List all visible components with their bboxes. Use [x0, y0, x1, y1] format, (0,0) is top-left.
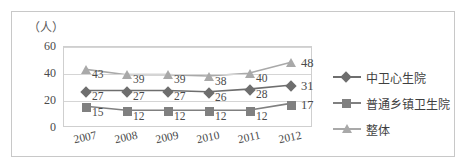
x-tick-label: 2010: [196, 129, 221, 146]
data-point-label: 12: [215, 110, 227, 122]
legend-square-icon: [333, 97, 361, 109]
data-point-label: 15: [92, 106, 104, 118]
legend-triangle-icon: [333, 123, 361, 135]
y-axis-unit-label: （人）: [28, 18, 64, 36]
data-point-label: 27: [174, 90, 186, 102]
data-point-label: 39: [174, 73, 186, 85]
data-point-label: 17: [301, 98, 314, 113]
chart-figure: （人） 0204060 2727272628311512121212174339…: [11, 11, 455, 157]
chart-legend: 中卫心生院普通乡镇卫生院整体: [333, 64, 453, 142]
data-point-label: 28: [256, 88, 268, 100]
data-point-marker: [205, 107, 214, 116]
x-tick-label: 2007: [73, 129, 98, 146]
data-point-marker: [163, 70, 173, 79]
data-point-marker: [81, 65, 91, 74]
y-tick-label: 0: [24, 120, 56, 135]
y-tick-label: 40: [24, 66, 56, 81]
legend-label: 中卫心生院: [366, 69, 426, 86]
x-tick-label: 2009: [155, 129, 180, 146]
plot-area: 272727262831151212121217433939384048: [63, 46, 312, 127]
y-axis-ticks: 0204060: [20, 46, 56, 127]
data-point-marker: [82, 103, 91, 112]
data-point-marker: [123, 107, 132, 116]
y-tick-label: 60: [24, 39, 56, 54]
x-tick-label: 2012: [278, 129, 303, 146]
legend-diamond-icon: [333, 71, 361, 83]
data-point-label: 43: [92, 68, 104, 80]
legend-item-2[interactable]: 整体: [333, 116, 453, 142]
x-tick-label: 2011: [237, 129, 262, 145]
data-point-label: 12: [256, 110, 268, 122]
data-point-label: 26: [215, 91, 227, 103]
data-point-marker: [246, 107, 255, 116]
data-point-label: 27: [133, 90, 145, 102]
legend-label: 普通乡镇卫生院: [366, 95, 450, 112]
data-point-label: 27: [92, 90, 104, 102]
legend-item-1[interactable]: 普通乡镇卫生院: [333, 90, 453, 116]
data-point-label: 12: [174, 110, 186, 122]
legend-label: 整体: [366, 121, 390, 138]
data-point-marker: [245, 69, 255, 78]
data-point-label: 40: [256, 72, 268, 84]
data-point-label: 39: [133, 73, 145, 85]
data-point-marker: [286, 58, 296, 67]
y-tick-label: 20: [24, 93, 56, 108]
x-tick-label: 2008: [114, 129, 139, 146]
data-point-label: 31: [301, 79, 314, 94]
data-point-marker: [164, 107, 173, 116]
data-point-marker: [287, 101, 296, 110]
gridline: [64, 47, 311, 48]
legend-item-0[interactable]: 中卫心生院: [333, 64, 453, 90]
data-point-marker: [204, 72, 214, 81]
data-point-label: 48: [301, 56, 314, 71]
data-point-marker: [122, 70, 132, 79]
data-point-label: 38: [215, 75, 227, 87]
data-point-label: 12: [133, 110, 145, 122]
x-axis-ticks: 200720082009201020112012: [63, 129, 312, 155]
